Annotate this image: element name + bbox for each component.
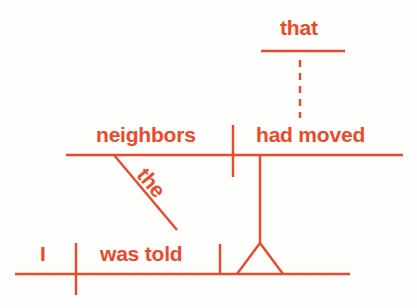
pedestal-right-leg [260, 243, 283, 274]
connector-word: that [280, 17, 318, 38]
main-subject-word: I [40, 243, 46, 264]
main-verb-word: was told [100, 243, 182, 264]
pedestal-left-leg [237, 243, 260, 274]
sentence-diagram: that neighbors had moved the I was told [0, 0, 417, 308]
diagram-lines [0, 0, 417, 308]
clause-verb-word: had moved [256, 124, 365, 145]
clause-subject-word: neighbors [96, 124, 196, 145]
